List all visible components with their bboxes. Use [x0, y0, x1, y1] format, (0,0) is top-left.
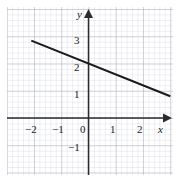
y-tick-label-1: 1: [74, 89, 80, 100]
x-tick-label-2: 2: [137, 124, 143, 135]
y-axis-label: y: [77, 9, 82, 20]
y-tick-label-minus-1: −1: [68, 142, 80, 153]
y-tick-label-3: 3: [74, 35, 80, 46]
graph-figure: 3 2 1 −1 −2 −1 0 1 2 x y: [0, 0, 179, 186]
x-tick-label-minus-2: −2: [25, 124, 37, 135]
x-axis-label: x: [158, 124, 163, 135]
grid-paper: [7, 6, 174, 176]
y-tick-label-2: 2: [74, 62, 80, 73]
coordinate-plot: [0, 0, 179, 186]
x-tick-label-origin: 0: [80, 124, 86, 135]
x-tick-label-1: 1: [110, 124, 116, 135]
x-tick-label-minus-1: −1: [52, 124, 64, 135]
